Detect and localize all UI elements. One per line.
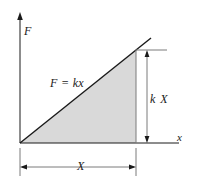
- y-axis-arrowhead-icon: [17, 12, 23, 20]
- vertical-dimension-label: k X: [150, 93, 169, 105]
- kX-dimension-arrowhead-top-icon: [145, 50, 150, 57]
- horizontal-dimension-label: X: [77, 160, 84, 172]
- X-dimension-arrowhead-left-icon: [20, 165, 27, 170]
- curve-equation-label: F = kx: [50, 77, 84, 89]
- x-axis-label: x: [177, 132, 182, 143]
- y-axis-label: F: [24, 25, 31, 37]
- spring-force-diagram: F x F = kx k X X: [0, 0, 201, 188]
- X-dimension-arrowhead-right-icon: [129, 165, 136, 170]
- kX-dimension-arrowhead-bottom-icon: [145, 136, 150, 143]
